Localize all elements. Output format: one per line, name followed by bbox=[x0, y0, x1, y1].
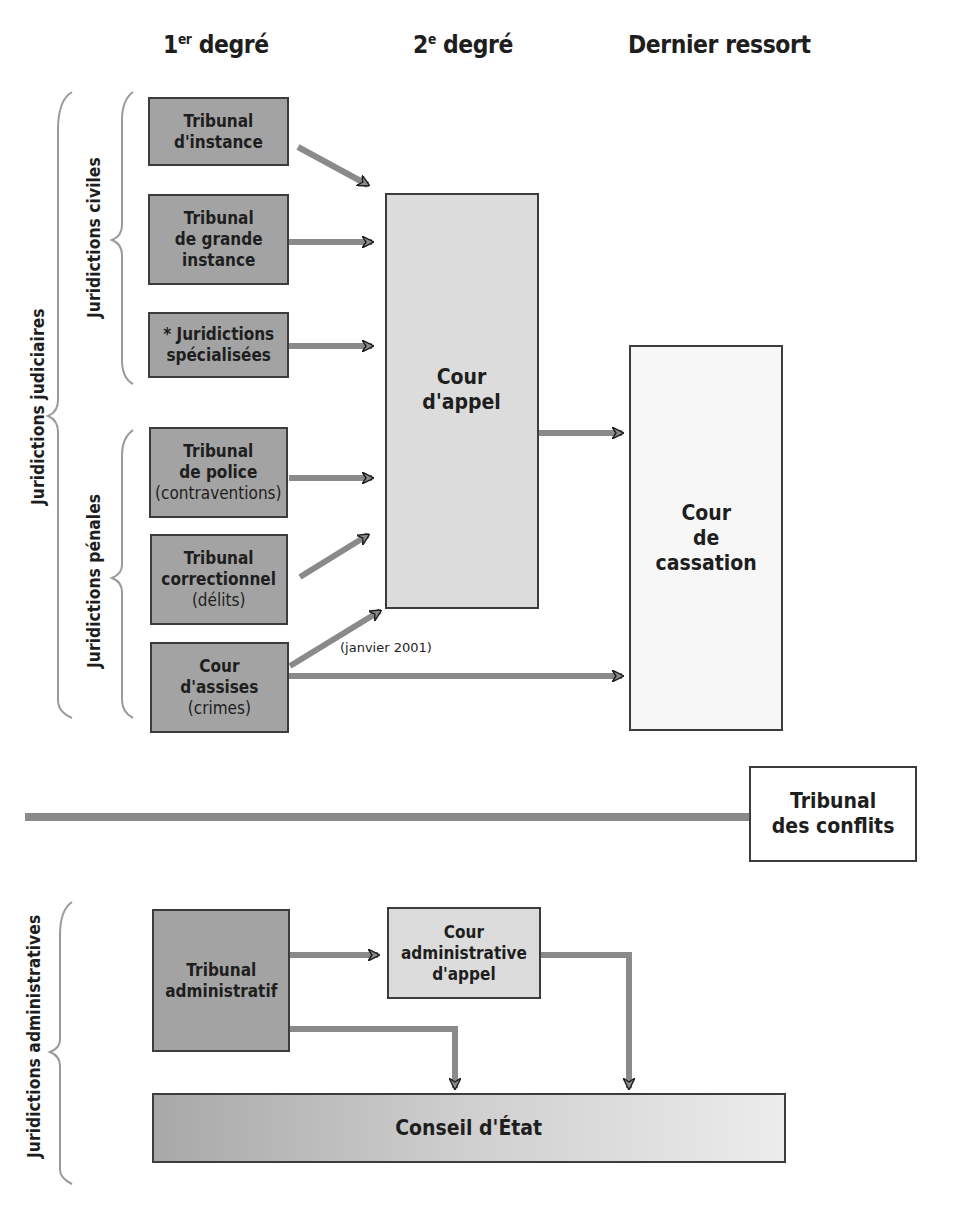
label-juridictions-administratives: Juridictions administratives bbox=[24, 915, 44, 1158]
box-tribunal-conflits[interactable]: Tribunaldes conflits bbox=[749, 766, 917, 862]
box-cour-cassation[interactable]: Courdecassation bbox=[629, 345, 783, 731]
box-conseil-etat[interactable]: Conseil d'État bbox=[152, 1093, 786, 1163]
box-tribunal-grande-instance[interactable]: Tribunalde grandeinstance bbox=[148, 194, 289, 285]
box-tribunal-police[interactable]: Tribunalde police(contraventions) bbox=[149, 427, 288, 518]
label-juridictions-judiciaires: Juridictions judiciaires bbox=[28, 308, 48, 505]
note-janvier-2001: (janvier 2001) bbox=[340, 640, 432, 655]
box-cour-assises[interactable]: Courd'assises(crimes) bbox=[150, 642, 289, 733]
box-tribunal-correctionnel[interactable]: Tribunalcorrectionnel(délits) bbox=[150, 534, 288, 625]
label-juridictions-civiles: Juridictions civiles bbox=[84, 157, 104, 318]
box-juridictions-specialisees[interactable]: * Juridictionsspécialisées bbox=[148, 312, 289, 378]
label-juridictions-penales: Juridictions pénales bbox=[84, 494, 104, 668]
box-tribunal-instance[interactable]: Tribunald'instance bbox=[148, 97, 289, 166]
box-cour-administrative-appel[interactable]: Couradministratived'appel bbox=[387, 907, 541, 999]
box-cour-appel[interactable]: Courd'appel bbox=[385, 193, 539, 609]
box-tribunal-administratif[interactable]: Tribunaladministratif bbox=[152, 909, 290, 1052]
